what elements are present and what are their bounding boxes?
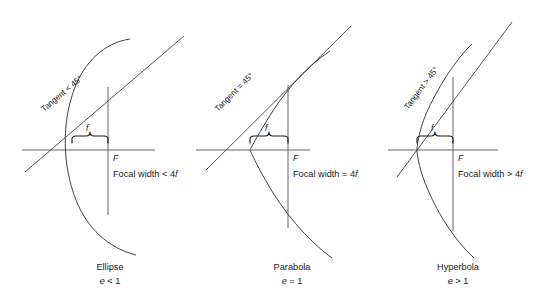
hyperbola-f-label: f (431, 123, 435, 133)
parabola-caption: Parabola (274, 262, 312, 272)
hyperbola-caption: Hyperbola (437, 262, 480, 272)
hyperbola-eccentricity: e > 1 (448, 276, 469, 286)
conic-sections-figure: f F Focal width < 4f Tangent < 45° Ellip… (0, 0, 556, 299)
panel-parabola: f F Focal width = 4f Tangent = 45° Parab… (196, 26, 359, 286)
hyperbola-focus-label: F (458, 153, 464, 163)
ellipse-f-brace (72, 132, 108, 143)
panel-ellipse: f F Focal width < 4f Tangent < 45° Ellip… (22, 36, 184, 286)
parabola-f-label: f (265, 123, 269, 133)
parabola-f-brace (250, 132, 288, 143)
parabola-focal-width-label: Focal width = 4f (293, 169, 359, 179)
hyperbola-focal-width-label: Focal width > 4f (458, 169, 524, 179)
ellipse-caption: Ellipse (96, 262, 123, 272)
parabola-curve (250, 51, 332, 258)
parabola-tangent-label: Tangent = 45° (213, 71, 255, 113)
figure-canvas: f F Focal width < 4f Tangent < 45° Ellip… (0, 0, 556, 299)
ellipse-focal-width-label: Focal width < 4f (113, 169, 179, 179)
panel-hyperbola: f F Focal width > 4f Tangent > 45° Hyper… (388, 22, 524, 286)
hyperbola-tangent-label: Tangent > 45° (402, 65, 440, 111)
ellipse-tangent-label: Tangent < 45° (40, 74, 85, 114)
ellipse-f-label: f (86, 123, 90, 133)
ellipse-eccentricity: e < 1 (100, 276, 121, 286)
parabola-eccentricity: e = 1 (282, 276, 303, 286)
ellipse-focus-label: F (113, 153, 119, 163)
hyperbola-f-brace (417, 132, 453, 143)
ellipse-curve (65, 39, 136, 255)
parabola-focus-label: F (293, 153, 299, 163)
